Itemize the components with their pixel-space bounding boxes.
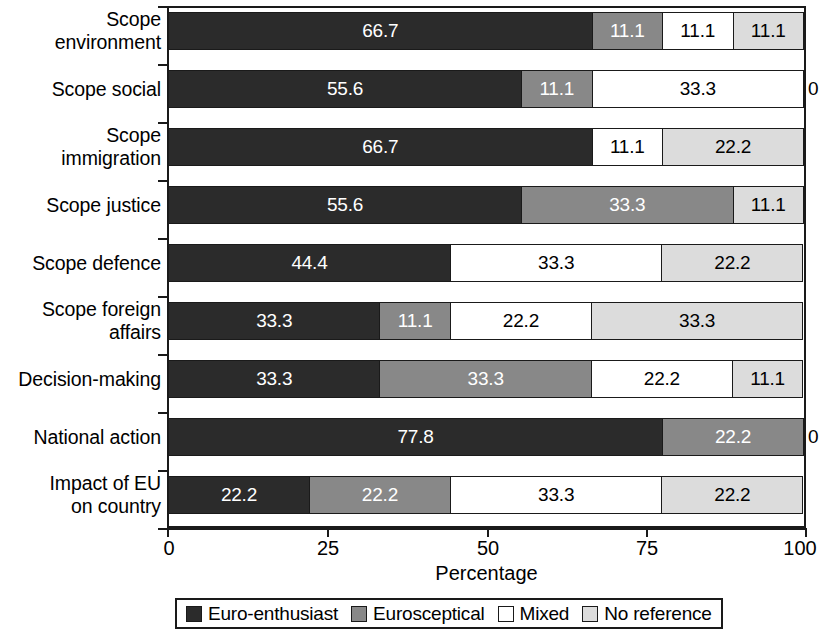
legend-swatch-icon-no-reference xyxy=(582,606,598,622)
table-row: National action 77.8 22.2 0 xyxy=(0,418,828,456)
y-axis-tick xyxy=(158,296,168,298)
table-row: Scope social 55.6 11.1 33.3 0 xyxy=(0,70,828,108)
legend-item-mixed: Mixed xyxy=(498,603,570,625)
segment-euro-enthusiast-0: 66.7 xyxy=(169,12,593,50)
category-label-3: Scope justice xyxy=(0,194,161,217)
legend-item-no-reference: No reference xyxy=(582,603,711,625)
x-axis-tick-0 xyxy=(167,528,169,537)
segment-mixed-1: 33.3 xyxy=(593,70,804,108)
table-row: Scope justice 55.6 33.3 11.1 xyxy=(0,186,828,224)
category-label-0: Scope environment xyxy=(0,8,161,54)
segment-euro-enthusiast-7: 77.8 xyxy=(169,418,663,456)
segment-eurosceptical-3: 33.3 xyxy=(522,186,733,224)
x-axis-label-100: 100 xyxy=(783,537,816,560)
table-row: Scope environment 66.7 11.1 11.1 11.1 xyxy=(0,12,828,50)
x-axis-label-0: 0 xyxy=(163,537,174,560)
legend-label-euro-enthusiast: Euro-enthusiast xyxy=(208,603,338,625)
bar-7: 77.8 22.2 xyxy=(169,418,804,456)
legend-swatch-icon-euro-enthusiast xyxy=(186,606,202,622)
category-label-6: Decision-making xyxy=(0,368,161,391)
segment-euro-enthusiast-8: 22.2 xyxy=(169,476,310,514)
y-axis-tick xyxy=(158,6,168,8)
segment-euro-enthusiast-3: 55.6 xyxy=(169,186,522,224)
chart-legend: Euro-enthusiast Eurosceptical Mixed No r… xyxy=(175,598,723,629)
segment-no-reference-zero-label-1: 0 xyxy=(808,78,819,100)
x-axis-tick-25 xyxy=(327,528,329,537)
table-row: Scope foreign affairs 33.3 11.1 22.2 33.… xyxy=(0,302,828,340)
segment-eurosceptical-6: 33.3 xyxy=(380,360,591,398)
bar-5: 33.3 11.1 22.2 33.3 xyxy=(169,302,804,340)
segment-no-reference-4: 22.2 xyxy=(662,244,803,282)
segment-no-reference-zero-label-7: 0 xyxy=(808,426,819,448)
x-axis-tick-75 xyxy=(646,528,648,537)
segment-eurosceptical-0: 11.1 xyxy=(593,12,663,50)
legend-label-mixed: Mixed xyxy=(520,603,570,625)
legend-swatch-icon-mixed xyxy=(498,606,514,622)
segment-euro-enthusiast-4: 44.4 xyxy=(169,244,451,282)
legend-item-euro-enthusiast: Euro-enthusiast xyxy=(186,603,338,625)
segment-no-reference-2: 22.2 xyxy=(663,128,804,166)
bar-1: 55.6 11.1 33.3 xyxy=(169,70,804,108)
table-row: Decision-making 33.3 33.3 22.2 11.1 xyxy=(0,360,828,398)
segment-no-reference-8: 22.2 xyxy=(662,476,803,514)
category-label-8: Impact of EU on country xyxy=(0,472,161,518)
x-axis-title: Percentage xyxy=(167,562,806,585)
segment-no-reference-3: 11.1 xyxy=(734,186,804,224)
y-axis-tick xyxy=(158,238,168,240)
y-axis-tick xyxy=(158,412,168,414)
bar-0: 66.7 11.1 11.1 11.1 xyxy=(169,12,804,50)
y-axis-tick xyxy=(158,64,168,66)
segment-euro-enthusiast-5: 33.3 xyxy=(169,302,380,340)
y-axis-tick xyxy=(158,470,168,472)
y-axis-tick xyxy=(158,122,168,124)
category-label-1: Scope social xyxy=(0,78,161,101)
bar-6: 33.3 33.3 22.2 11.1 xyxy=(169,360,804,398)
segment-mixed-0: 11.1 xyxy=(663,12,733,50)
x-axis-tick-100 xyxy=(805,528,807,537)
bar-rows: Scope environment 66.7 11.1 11.1 11.1 Sc… xyxy=(0,6,828,528)
table-row: Impact of EU on country 22.2 22.2 33.3 2… xyxy=(0,476,828,514)
legend-item-eurosceptical: Eurosceptical xyxy=(351,603,484,625)
segment-eurosceptical-5: 11.1 xyxy=(380,302,450,340)
segment-no-reference-0: 11.1 xyxy=(734,12,804,50)
segment-eurosceptical-8: 22.2 xyxy=(310,476,451,514)
segment-euro-enthusiast-2: 66.7 xyxy=(169,128,593,166)
segment-mixed-2: 11.1 xyxy=(593,128,663,166)
category-label-5: Scope foreign affairs xyxy=(0,298,161,344)
table-row: Scope defence 44.4 33.3 22.2 xyxy=(0,244,828,282)
x-axis-label-50: 50 xyxy=(477,537,499,560)
x-axis-label-25: 25 xyxy=(317,537,339,560)
legend-swatch-icon-eurosceptical xyxy=(351,606,367,622)
bar-2: 66.7 11.1 22.2 xyxy=(169,128,804,166)
legend-label-eurosceptical: Eurosceptical xyxy=(373,603,484,625)
segment-mixed-6: 22.2 xyxy=(592,360,733,398)
segment-no-reference-6: 11.1 xyxy=(733,360,803,398)
table-row: Scope immigration 66.7 11.1 22.2 xyxy=(0,128,828,166)
category-label-2: Scope immigration xyxy=(0,124,161,170)
segment-mixed-5: 22.2 xyxy=(451,302,592,340)
legend-label-no-reference: No reference xyxy=(604,603,711,625)
x-axis-tick-50 xyxy=(487,528,489,537)
y-axis-tick xyxy=(158,354,168,356)
bar-3: 55.6 33.3 11.1 xyxy=(169,186,804,224)
segment-mixed-8: 33.3 xyxy=(451,476,662,514)
segment-no-reference-5: 33.3 xyxy=(592,302,803,340)
segment-euro-enthusiast-1: 55.6 xyxy=(169,70,522,108)
segment-euro-enthusiast-6: 33.3 xyxy=(169,360,380,398)
segment-mixed-4: 33.3 xyxy=(451,244,662,282)
bar-8: 22.2 22.2 33.3 22.2 xyxy=(169,476,804,514)
y-axis-tick xyxy=(158,180,168,182)
x-axis-label-75: 75 xyxy=(636,537,658,560)
stacked-bar-chart: Scope environment 66.7 11.1 11.1 11.1 Sc… xyxy=(0,0,828,632)
category-label-7: National action xyxy=(0,426,161,449)
segment-eurosceptical-7: 22.2 xyxy=(663,418,804,456)
category-label-4: Scope defence xyxy=(0,252,161,275)
bar-4: 44.4 33.3 22.2 xyxy=(169,244,804,282)
segment-eurosceptical-1: 11.1 xyxy=(522,70,592,108)
